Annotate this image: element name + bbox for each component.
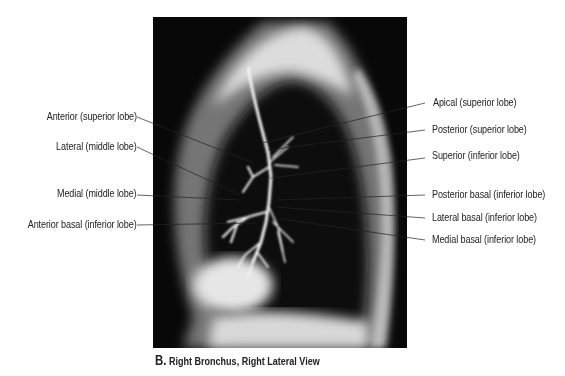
caption-text: Right Bronchus, Right Lateral View <box>169 355 320 367</box>
label-superior-inferior-lobe: Superior (inferior lobe) <box>432 149 520 161</box>
label-lateral-basal-inferior-lobe: Lateral basal (inferior lobe) <box>432 211 537 223</box>
label-posterior-basal-inferior-lobe: Posterior basal (inferior lobe) <box>432 188 545 200</box>
label-medial-middle-lobe: Medial (middle lobe) <box>57 187 137 199</box>
label-lateral-middle-lobe: Lateral (middle lobe) <box>56 140 137 152</box>
figure-caption: B. Right Bronchus, Right Lateral View <box>155 352 320 368</box>
label-anterior-basal-inferior-lobe: Anterior basal (inferior lobe) <box>28 218 137 230</box>
label-posterior-superior-lobe: Posterior (superior lobe) <box>432 123 527 135</box>
label-anterior-superior-lobe: Anterior (superior lobe) <box>47 110 137 122</box>
label-medial-basal-inferior-lobe: Medial basal (inferior lobe) <box>432 233 536 245</box>
caption-letter: B. <box>155 352 166 368</box>
label-apical-superior-lobe: Apical (superior lobe) <box>433 96 516 108</box>
